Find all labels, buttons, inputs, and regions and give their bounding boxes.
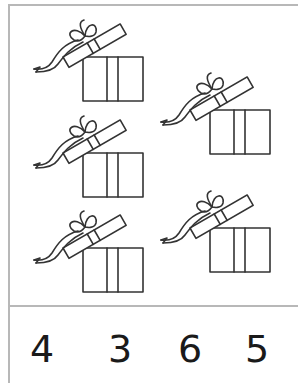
answer-choice-4[interactable]: 5 [237, 325, 277, 373]
answer-choice-1[interactable]: 4 [22, 325, 62, 373]
gift-box-icon [155, 185, 275, 275]
gift-box-icon [28, 14, 148, 104]
gift-box-icon [28, 110, 148, 200]
frame-top-border [8, 4, 298, 6]
answer-choices: 4 3 6 5 [0, 325, 298, 375]
gift-box-icon [155, 67, 275, 157]
worksheet: 4 3 6 5 [0, 0, 298, 383]
gift-box-icon [28, 205, 148, 295]
section-divider [8, 305, 298, 307]
answer-choice-2[interactable]: 3 [100, 325, 140, 373]
answer-choice-3[interactable]: 6 [170, 325, 210, 373]
